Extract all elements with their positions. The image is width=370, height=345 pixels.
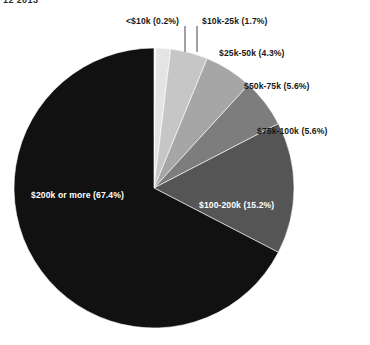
slice-label-75k-100k: $75k-100k (5.6%) — [257, 126, 327, 136]
slice-label-50k-75k: $50k-75k (5.6%) — [244, 81, 310, 91]
slice-label-200k-or-more: $200k or more (67.4%) — [31, 190, 124, 200]
pie-chart-figure: 12 2013 <$10k (0.2%) $10k-25k (1.7%) $25… — [0, 0, 370, 345]
slice-label-10k-25k: $10k-25k (1.7%) — [202, 16, 268, 26]
pie-chart-canvas — [0, 0, 370, 345]
slice-label-100k-200k: $100-200k (15.2%) — [199, 200, 274, 210]
leader-lines — [185, 26, 197, 52]
slice-label-lt-10k: <$10k (0.2%) — [126, 16, 179, 26]
slice-label-25k-50k: $25k-50k (4.3%) — [219, 48, 285, 58]
